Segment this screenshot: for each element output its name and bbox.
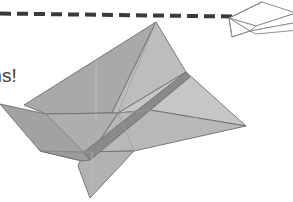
illustration-canvas: ms!	[0, 0, 293, 202]
large-shaded-paper-plane	[0, 22, 246, 198]
dashed-flight-path	[0, 14, 232, 17]
caption-text-fragment: ms!	[0, 66, 17, 85]
paper-airplane-illustration	[0, 0, 293, 202]
facet-lower-left-fin-tab	[40, 151, 90, 161]
small-outline-paper-plane	[229, 2, 293, 37]
